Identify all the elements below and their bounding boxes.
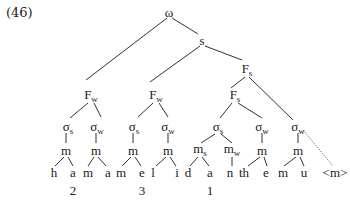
tree-edge [172, 18, 198, 34]
node-m5: ms [193, 142, 207, 158]
node-label: e [263, 165, 269, 180]
tree-edge [220, 103, 232, 118]
node-m8: m [293, 144, 303, 157]
node-label: m [193, 141, 203, 156]
tree-edge [94, 103, 101, 117]
node-Fw1: Fw [84, 88, 98, 104]
dotted-tree-edge [303, 130, 333, 166]
tree-edge [150, 46, 200, 82]
node-sig4: σw [161, 120, 175, 136]
node-subscript: s [70, 126, 74, 136]
node-label: a [207, 165, 213, 180]
tree-edge [70, 103, 88, 118]
node-m2: m [91, 144, 101, 157]
node-label: i [175, 165, 179, 180]
node-subscript: w [262, 126, 269, 136]
node-seg_a2: a [105, 166, 111, 179]
node-Fs_inner: Fs [230, 88, 241, 104]
node-sig3: σs [129, 120, 140, 136]
node-label: m [128, 143, 138, 158]
node-seg_a3: a [207, 166, 213, 179]
node-sig2: σw [90, 120, 104, 136]
node-label: h [51, 165, 58, 180]
node-tone3: 3 [139, 184, 146, 197]
node-subscript: s [220, 126, 224, 136]
node-label: <m> [323, 165, 348, 180]
node-seg_m2: m [116, 166, 126, 179]
node-sig5: σs [213, 120, 224, 136]
node-label: e [139, 165, 145, 180]
node-label: σ [129, 119, 136, 134]
node-label: σ [213, 119, 220, 134]
node-subscript: w [168, 126, 175, 136]
node-label: σ [161, 119, 168, 134]
node-subscript: w [234, 148, 241, 158]
node-tone2: 2 [70, 184, 77, 197]
node-label: s [199, 33, 204, 48]
node-m6: mw [224, 142, 241, 158]
node-label: d [185, 165, 192, 180]
node-seg_n: n [227, 166, 234, 179]
node-label: σ [63, 119, 70, 134]
node-label: m [91, 143, 101, 158]
node-subscript: w [91, 94, 98, 104]
node-label: m [224, 141, 234, 156]
node-seg_h: h [51, 166, 58, 179]
node-subscript: s [203, 148, 207, 158]
node-m4: m [163, 144, 173, 157]
node-omega: ω [165, 6, 174, 19]
node-label: m [61, 143, 71, 158]
node-Fs_top: Fs [242, 62, 253, 78]
node-label: 1 [207, 183, 214, 198]
node-sig7: σw [291, 120, 305, 136]
prosodic-tree-diagram: (46) ωsFsFwFwFsσsσwσsσwσsσwσwmmmmmsmwmmh… [0, 0, 350, 205]
node-seg_th: th [239, 166, 249, 179]
node-label: m [278, 165, 288, 180]
node-sig1: σs [63, 120, 74, 136]
node-label: σ [255, 119, 262, 134]
node-label: σ [90, 119, 97, 134]
node-seg_l: l [151, 166, 155, 179]
node-m3: m [128, 144, 138, 157]
node-label: 3 [139, 183, 146, 198]
node-Fw2: Fw [149, 88, 163, 104]
node-label: m [293, 143, 303, 158]
node-tone1: 1 [207, 184, 214, 197]
node-m1: m [61, 144, 71, 157]
node-label: n [227, 165, 234, 180]
node-label: m [257, 143, 267, 158]
node-label: m [83, 165, 93, 180]
node-seg_e2: e [263, 166, 269, 179]
node-subscript: s [249, 68, 253, 78]
node-label: m [163, 143, 173, 158]
node-subscript: s [237, 94, 241, 104]
node-label: σ [291, 119, 298, 134]
node-seg_m1: m [83, 166, 93, 179]
node-label: a [105, 165, 111, 180]
tree-edge [86, 18, 167, 80]
node-seg_u: u [301, 166, 308, 179]
tree-edge [138, 103, 153, 117]
node-label: a [70, 165, 76, 180]
node-subscript: w [298, 126, 305, 136]
node-subscript: w [156, 94, 163, 104]
node-seg_a1: a [70, 166, 76, 179]
tree-edge [156, 157, 166, 166]
node-subscript: s [136, 126, 140, 136]
node-label: m [116, 165, 126, 180]
node-subscript: w [97, 126, 104, 136]
node-label: 2 [70, 183, 77, 198]
node-seg_i: i [175, 166, 179, 179]
tree-edge [238, 103, 262, 118]
tree-edge [159, 103, 168, 117]
tree-edge [205, 46, 242, 60]
node-m7: m [257, 144, 267, 157]
node-label: u [301, 165, 308, 180]
node-label: l [151, 165, 155, 180]
node-label: ω [165, 5, 174, 20]
node-sig6: σw [255, 120, 269, 136]
tree-edge [248, 157, 260, 166]
node-seg_m3: m [278, 166, 288, 179]
node-seg_e1: e [139, 166, 145, 179]
node-s: s [199, 34, 204, 47]
